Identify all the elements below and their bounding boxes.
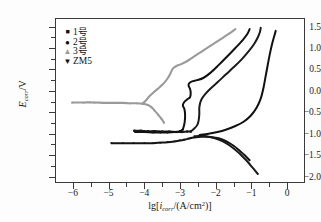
legend-label: ZM5 <box>73 57 92 67</box>
y-tick-label: 1.0 <box>275 43 321 53</box>
y-tick <box>49 91 55 92</box>
x-tick-label: 0 <box>272 188 302 198</box>
y-tick-label: −2.0 <box>275 172 321 182</box>
polarization-curve-figure: 1.51.00.50.0−0.5−1.0−1.5−2.0 −6−5−4−3−2−… <box>0 0 321 222</box>
x-tick-label: −1 <box>236 188 266 198</box>
x-axis-title: lg[icorr/(A/cm2)] <box>55 200 305 212</box>
triangle-down-marker-icon: ▼ <box>62 57 73 67</box>
x-axis-suffix: )] <box>205 200 212 211</box>
y-minor-tick <box>51 80 55 81</box>
y-minor-tick <box>51 37 55 38</box>
legend-item-ZM5[interactable]: ▼ZM5 <box>62 57 92 67</box>
x-minor-tick <box>269 183 270 187</box>
y-tick-label: −1.5 <box>275 150 321 160</box>
y-minor-tick <box>51 59 55 60</box>
x-minor-tick <box>234 183 235 187</box>
circle-marker-icon: ● <box>62 38 73 48</box>
x-tick-label: −6 <box>58 188 88 198</box>
y-minor-tick <box>51 123 55 124</box>
x-minor-tick <box>162 183 163 187</box>
y-tick <box>49 48 55 49</box>
y-tick <box>49 69 55 70</box>
y-minor-tick <box>51 102 55 103</box>
y-tick <box>49 155 55 156</box>
x-axis-prefix: lg[ <box>148 200 159 211</box>
triangle-up-marker-icon: ▲ <box>62 47 73 57</box>
y-axis-subscript: corr <box>22 90 29 101</box>
y-tick-label: 1.5 <box>275 22 321 32</box>
y-tick <box>49 112 55 113</box>
x-tick-label: −3 <box>165 188 195 198</box>
x-axis-mid: /(A/cm <box>173 200 201 211</box>
x-axis-subscript: corr <box>162 205 173 212</box>
y-tick-label: −0.5 <box>275 107 321 117</box>
x-minor-tick <box>126 183 127 187</box>
x-minor-tick <box>91 183 92 187</box>
y-tick <box>49 177 55 178</box>
x-tick-label: −2 <box>201 188 231 198</box>
y-tick <box>49 134 55 135</box>
legend: ■1号●2号▲3号▼ZM5 <box>62 28 92 66</box>
y-tick-label: −1.0 <box>275 129 321 139</box>
plot-area <box>55 18 305 183</box>
y-axis-symbol: E <box>17 101 28 107</box>
y-tick <box>49 27 55 28</box>
y-tick-label: 0.5 <box>275 64 321 74</box>
square-marker-icon: ■ <box>62 28 73 38</box>
y-tick-label: 0.0 <box>275 86 321 96</box>
x-tick-label: −5 <box>94 188 124 198</box>
y-axis-title: Ecorr/V <box>17 59 29 129</box>
x-minor-tick <box>198 183 199 187</box>
y-minor-tick <box>51 144 55 145</box>
y-axis-unit: /V <box>17 80 28 90</box>
x-tick-label: −4 <box>129 188 159 198</box>
y-minor-tick <box>51 166 55 167</box>
